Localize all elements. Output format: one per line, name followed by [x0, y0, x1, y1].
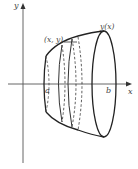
disk-1-back [62, 45, 65, 122]
upper-bound-label: b [106, 86, 111, 95]
x-axis-label: x [128, 87, 133, 96]
point-label: (x, y) [44, 35, 63, 44]
bottom-curve [46, 112, 104, 137]
disk-3-back [78, 37, 82, 130]
lower-bound-label: a [45, 86, 50, 95]
y-axis-arrow-icon [21, 3, 26, 9]
x-axis-arrow-icon [126, 82, 132, 87]
disk-1-front [59, 45, 63, 122]
solid-of-revolution-diagram: y x (x, y) y(x) a b [0, 0, 138, 169]
curve-label: y(x) [99, 22, 114, 31]
disk-2-back [72, 39, 76, 127]
y-axis-label: y [13, 1, 19, 10]
disk-2-front [68, 39, 72, 127]
cross-sections [59, 37, 83, 130]
labels: y x (x, y) y(x) a b [13, 1, 133, 96]
